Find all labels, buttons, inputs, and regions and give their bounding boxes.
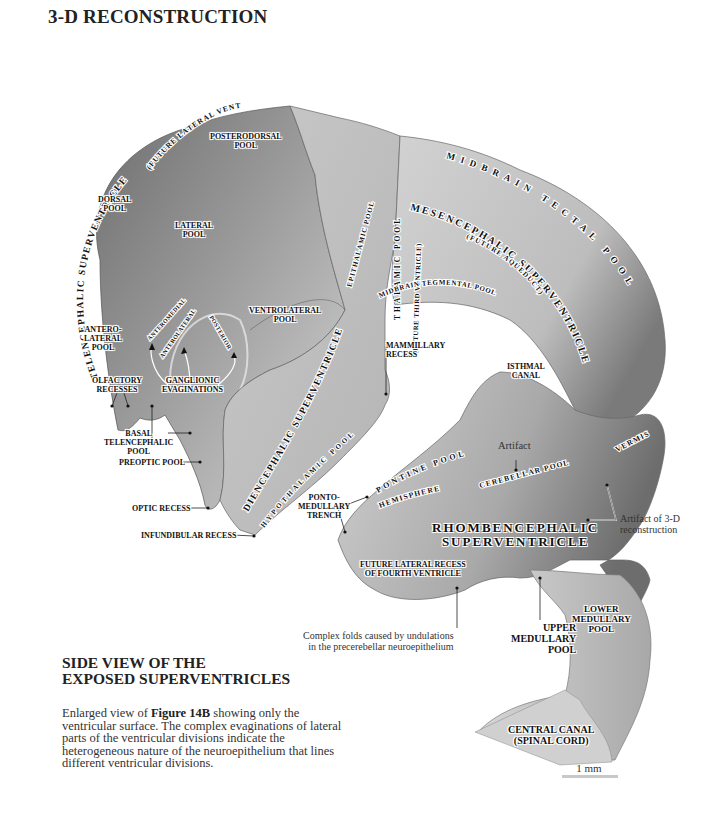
artifact-note: Artifact (498, 440, 531, 451)
basal-telencephalic-pool-label: BASAL TELENCEPHALIC POOL (104, 429, 173, 456)
ventricle-reconstruction-illustration: TELENCEPHALIC SUPERVENTRICLE (FUTURE LAT… (0, 0, 720, 817)
isthmal-canal-label: ISTHMAL CANAL (507, 362, 545, 380)
future-lateral-recess-label: FUTURE LATERAL RECESS OF FOURTH VENTRICL… (360, 560, 466, 578)
upper-medullary-pool-label: UPPER MEDULLARY POOL (511, 622, 576, 655)
dorsal-pool-label: DORSAL POOL (98, 195, 131, 213)
svg-text:THALAMIC POOL: THALAMIC POOL (393, 216, 402, 320)
ganglionic-evaginations-label: GANGLIONIC EVAGINATIONS (162, 376, 223, 394)
preoptic-pool-label: PREOPTIC POOL (119, 458, 185, 467)
complex-folds-note: Complex folds caused by undulations in t… (303, 630, 454, 652)
artifact-3d-note: Artifact of 3-D reconstruction (620, 513, 680, 535)
mammillary-recess-label: MAMMILLARY RECESS (386, 341, 445, 359)
lateral-pool-label: LATERAL POOL (175, 221, 213, 239)
infundibular-recess-label: INFUNDIBULAR RECESS (141, 531, 236, 540)
section-title: SIDE VIEW OF THE EXPOSED SUPERVENTRICLES (62, 655, 290, 687)
figure-caption: Enlarged view of Figure 14B showing only… (62, 707, 342, 770)
anterolateral-pool-label: ANTERO- LATERAL POOL (84, 325, 122, 352)
scale-label: 1 mm (563, 762, 615, 774)
lower-medullary-pool-label: LOWER MEDULLARY POOL (572, 604, 631, 634)
thalamic-pool-label: THALAMIC POOL (393, 216, 402, 320)
scale-bar (562, 775, 618, 778)
ventrolateral-pool-label: VENTROLATERAL POOL (249, 306, 321, 324)
posterodorsal-pool-label: POSTERODORSAL POOL (210, 132, 282, 150)
olfactory-recesses-label: OLFACTORY RECESSES (92, 376, 142, 394)
rhombencephalic-superventricle-label: RHOMBENCEPHALIC SUPERVENTRICLE (432, 521, 599, 549)
optic-recess-label: OPTIC RECESS (132, 504, 190, 513)
central-canal-label: CENTRAL CANAL (SPINAL CORD) (508, 724, 594, 746)
pontomedullary-trench-label: PONTO- MEDULLARY TRENCH (298, 493, 350, 520)
